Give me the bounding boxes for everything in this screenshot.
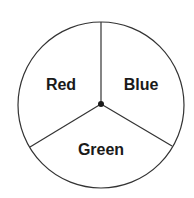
section-label-blue: Blue — [124, 76, 159, 93]
section-label-red: Red — [46, 76, 76, 93]
spinner-diagram: Red Blue Green — [0, 0, 194, 198]
center-pivot — [98, 101, 104, 107]
section-label-green: Green — [78, 141, 124, 158]
